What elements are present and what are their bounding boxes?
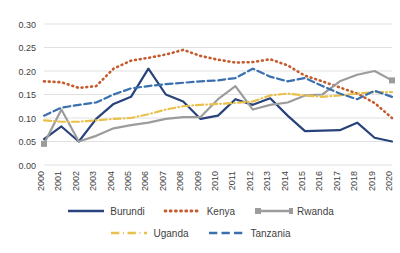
x-axis-tick-label: 2018 (349, 171, 359, 191)
x-axis-tick-label: 2001 (53, 171, 63, 191)
legend-label-uganda: Uganda (153, 228, 188, 239)
legend-row-1: BurundiKenyaRwanda (0, 200, 400, 222)
plot-area: 0.000.050.100.150.200.250.30 20002001200… (0, 0, 400, 200)
legend-swatch-burundi (66, 205, 106, 217)
y-axis-tick-label: 0.20 (18, 67, 36, 77)
x-axis-tick-label: 2010 (210, 171, 220, 191)
x-axis-tick-label: 2020 (384, 171, 394, 191)
x-axis-tick-label: 2006 (140, 171, 150, 191)
y-axis-tick-label: 0.15 (18, 90, 36, 100)
x-axis-tick-label: 2012 (245, 171, 255, 191)
legend-swatch-kenya (163, 205, 203, 217)
series-marker-rwanda (41, 141, 47, 147)
x-axis-tick-label: 2002 (71, 171, 81, 191)
legend-label-rwanda: Rwanda (297, 206, 334, 217)
legend-swatch-rwanda (253, 205, 293, 217)
x-axis-tick-label: 2000 (36, 171, 46, 191)
line-chart: 0.000.050.100.150.200.250.30 20002001200… (0, 0, 400, 253)
y-axis-tick-labels: 0.000.050.100.150.200.250.30 (18, 20, 36, 171)
x-axis-tick-label: 2008 (175, 171, 185, 191)
legend-item-burundi[interactable]: Burundi (66, 205, 144, 217)
legend-item-uganda[interactable]: Uganda (109, 227, 188, 239)
y-axis-tick-label: 0.30 (18, 20, 36, 30)
legend-item-tanzania[interactable]: Tanzania (207, 227, 291, 239)
legend-label-burundi: Burundi (110, 206, 144, 217)
series-line-uganda (44, 92, 392, 122)
legend-item-kenya[interactable]: Kenya (163, 205, 235, 217)
x-axis-tick-label: 2016 (314, 171, 324, 191)
x-axis-tick-label: 2005 (123, 171, 133, 191)
series-line-rwanda (44, 71, 392, 144)
series-line-tanzania (44, 69, 392, 116)
series-marker-rwanda (389, 77, 395, 83)
series-line-kenya (44, 50, 392, 118)
chart-legend: BurundiKenyaRwanda UgandaTanzania (0, 200, 400, 252)
legend-item-rwanda[interactable]: Rwanda (253, 205, 334, 217)
y-axis-tick-label: 0.05 (18, 137, 36, 147)
x-axis-tick-label: 2009 (193, 171, 203, 191)
x-axis-tick-label: 2013 (262, 171, 272, 191)
legend-swatch-tanzania (207, 227, 247, 239)
data-series-group (41, 50, 395, 147)
legend-row-2: UgandaTanzania (0, 222, 400, 244)
x-axis-tick-label: 2011 (227, 171, 237, 190)
x-axis-tick-labels: 2000200120022003200420052006200720082009… (36, 171, 394, 191)
x-axis-tick-label: 2014 (280, 171, 290, 191)
x-axis-tick-label: 2017 (332, 171, 342, 191)
legend-label-kenya: Kenya (207, 206, 235, 217)
x-axis-tick-label: 2003 (88, 171, 98, 191)
x-axis-tick-label: 2007 (158, 171, 168, 191)
legend-label-tanzania: Tanzania (251, 228, 291, 239)
y-axis-tick-label: 0.10 (18, 114, 36, 124)
x-axis-tick-label: 2004 (106, 171, 116, 191)
y-axis-tick-label: 0.00 (18, 161, 36, 171)
legend-swatch-uganda (109, 227, 149, 239)
x-axis-tick-label: 2015 (297, 171, 307, 191)
x-axis-tick-label: 2019 (367, 171, 377, 191)
y-axis-tick-label: 0.25 (18, 43, 36, 53)
